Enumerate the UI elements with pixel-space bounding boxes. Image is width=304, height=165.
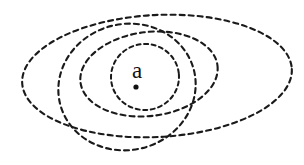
- curve-third-neighborhood: [75, 24, 222, 124]
- point-label-a: a: [132, 58, 142, 83]
- curve-innermost-neighborhood: [108, 41, 181, 113]
- point-dot: [133, 84, 138, 89]
- diagram-svg: a: [0, 0, 304, 165]
- figure-canvas: a: [0, 0, 304, 165]
